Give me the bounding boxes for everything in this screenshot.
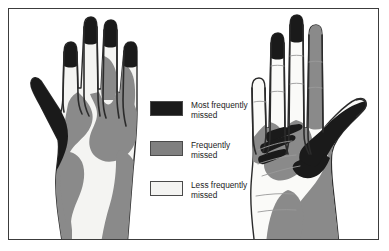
legend-label-line1: Most frequently — [191, 100, 248, 110]
right-hand-ring-tip-frequently-missed — [309, 25, 322, 52]
left-hand-middle-tip — [104, 20, 117, 48]
left-hand-dorsal — [31, 17, 139, 250]
left-hand-index-tip — [84, 17, 97, 45]
left-hand-fingertips-most-missed — [64, 17, 137, 68]
most-frequently-missed-swatch — [150, 101, 183, 116]
legend-item-frequently-missed: Frequently missed — [150, 140, 270, 163]
legend-item-less-frequently-missed: Less frequently missed — [150, 180, 270, 203]
hand-hygiene-figure: Most frequently missed Frequently missed… — [0, 0, 389, 251]
frequently-missed-swatch — [150, 141, 183, 156]
less-frequently-missed-swatch — [150, 181, 183, 196]
legend-label-most-frequently-missed: Most frequently missed — [191, 100, 248, 121]
legend-label-less-frequently-missed: Less frequently missed — [191, 180, 247, 201]
legend-label-line2: missed — [191, 110, 248, 120]
legend-label-line1: Frequently — [191, 140, 230, 150]
right-hand-middle-tip — [290, 15, 303, 43]
left-hand-little-tip — [64, 42, 77, 68]
legend-label-line2: missed — [191, 150, 230, 160]
left-hand-ring-tip — [124, 42, 137, 68]
legend-item-most-frequently-missed: Most frequently missed — [150, 100, 270, 123]
legend: Most frequently missed Frequently missed… — [150, 100, 270, 220]
legend-label-line1: Less frequently — [191, 180, 247, 190]
right-hand-little-finger-shading — [309, 40, 323, 130]
right-hand-index-tip — [271, 33, 284, 60]
legend-label-frequently-missed: Frequently missed — [191, 140, 230, 161]
legend-label-line2: missed — [191, 190, 247, 200]
